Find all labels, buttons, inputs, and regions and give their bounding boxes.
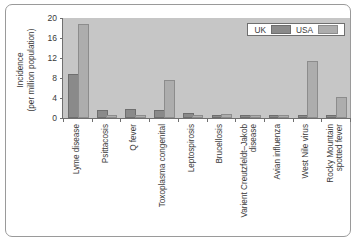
y-tick-8: 8: [52, 74, 57, 83]
x-tick-label: Brucellosis: [206, 124, 235, 236]
y-tickmark-8: [60, 78, 63, 79]
y-tick-4: 4: [52, 94, 57, 103]
y-tickmark-12: [60, 58, 63, 59]
x-tickmark: [350, 118, 351, 122]
legend-swatch-uk: [271, 25, 291, 34]
bar-usa: [221, 114, 232, 119]
bar-group: [92, 18, 121, 118]
x-axis-tick-labels: Lyme diseasePsittacosisQ feverToxoplasma…: [62, 124, 349, 236]
bar-usa: [164, 80, 175, 119]
legend-label-usa: USA: [296, 25, 313, 35]
x-tickmark: [264, 118, 265, 122]
y-axis-title: Incidence (per million population): [14, 18, 36, 122]
bar-group: [149, 18, 178, 118]
y-tick-16: 16: [48, 34, 57, 43]
x-tick-label: Psittacosis: [91, 124, 120, 236]
x-tick-label-line: Brucellosis: [215, 124, 225, 232]
y-tick-20: 20: [48, 14, 57, 23]
x-tick-label-line: spotted fever: [335, 124, 345, 232]
x-tick-label-line: Avian influenza: [273, 124, 283, 232]
legend-label-uk: UK: [254, 25, 266, 35]
x-tickmark: [92, 118, 93, 122]
x-tick-label-line: Q fever: [129, 124, 139, 232]
legend-swatch-usa: [318, 25, 338, 34]
x-tick-label: Toxoplasma congenital: [148, 124, 177, 236]
bar-chart: Incidence (per million population) 04812…: [0, 0, 359, 243]
x-tick-label: Avian influenza: [263, 124, 292, 236]
y-axis-tick-labels: 048121620: [36, 18, 60, 122]
x-tickmark: [120, 118, 121, 122]
x-tick-label-line: disease: [249, 124, 259, 232]
x-tickmark: [63, 118, 64, 122]
x-tickmark: [293, 118, 294, 122]
x-tickmark: [149, 118, 150, 122]
x-tick-label: Q fever: [119, 124, 148, 236]
x-tickmark: [321, 118, 322, 122]
bar-group: [120, 18, 149, 118]
x-tick-label: Varient Creutzfeldt–Jakobdisease: [234, 124, 263, 236]
x-tick-label: Rocky Mountainspotted fever: [320, 124, 349, 236]
bar-usa: [106, 115, 117, 118]
x-tick-label: Lyme disease: [62, 124, 91, 236]
bar-group: [207, 18, 236, 118]
y-tickmark-16: [60, 38, 63, 39]
x-tickmark: [178, 118, 179, 122]
bar-usa: [278, 115, 289, 118]
plot-area: UK USA: [62, 18, 350, 119]
x-tick-label: West Nile virus: [292, 124, 321, 236]
x-tick-label-line: Toxoplasma congenital: [158, 124, 168, 232]
bar-usa: [135, 115, 146, 119]
x-tick-label: Leptospirosis: [177, 124, 206, 236]
x-tick-label-line: Leptospirosis: [187, 124, 197, 232]
x-tick-label-line: West Nile virus: [301, 124, 311, 232]
y-tick-0: 0: [52, 114, 57, 123]
y-tick-12: 12: [48, 54, 57, 63]
bar-usa: [336, 97, 347, 118]
bar-usa: [250, 115, 261, 118]
bar-usa: [307, 61, 318, 118]
x-tickmark: [235, 118, 236, 122]
y-tickmark-20: [60, 18, 63, 19]
y-tickmark-4: [60, 98, 63, 99]
x-tick-label-line: Psittacosis: [101, 124, 111, 232]
y-axis-title-line-1: Incidence: [15, 18, 26, 122]
x-tick-label-line: Lyme disease: [72, 124, 82, 232]
bar-group: [178, 18, 207, 118]
legend: UK USA: [247, 23, 345, 36]
bar-usa: [78, 24, 89, 118]
bar-usa: [192, 115, 203, 118]
x-tickmark: [207, 118, 208, 122]
bar-group: [63, 18, 92, 118]
